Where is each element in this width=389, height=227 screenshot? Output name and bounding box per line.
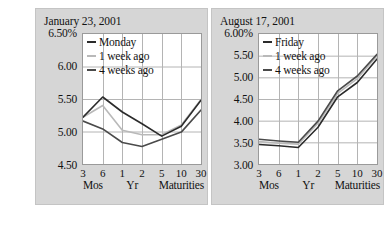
legend-item: Monday: [87, 35, 154, 49]
x-axis-tick-label: 10: [352, 167, 363, 179]
legend-color-swatch: [263, 41, 272, 43]
x-axis-tick-label: 1: [120, 167, 126, 179]
y-axis-tick-label: 5.50: [58, 94, 77, 105]
legend-color-swatch: [263, 55, 272, 57]
x-axis-group-label: Maturities: [335, 179, 380, 192]
chart-legend: Friday1 week ago4 weeks ago: [263, 35, 330, 77]
y-axis-tick-label: 6.00: [58, 61, 77, 72]
legend-item: 1 week ago: [87, 49, 154, 63]
x-axis-group-label: Maturities: [159, 179, 204, 192]
legend-item-label: 4 weeks ago: [99, 64, 154, 76]
x-axis-group-label: Yr: [126, 179, 138, 192]
x-axis-tick-label: 3: [256, 167, 262, 179]
x-axis-tick-label: 30: [196, 167, 207, 179]
legend-color-swatch: [87, 55, 96, 57]
x-axis-group-labels: MosYrMaturities: [259, 179, 377, 192]
legend-item-label: 1 week ago: [275, 50, 325, 62]
yield-curve-figure: January 23, 20014.505.005.506.006.50%Mon…: [0, 0, 389, 227]
x-axis-tick-label: 6: [100, 167, 106, 179]
x-axis-group-label: Yr: [302, 179, 314, 192]
legend-item: Friday: [263, 35, 330, 49]
y-axis-tick-label: 6.50%: [48, 28, 77, 39]
y-axis-tick-label: 4.50: [58, 160, 77, 171]
legend-item: 1 week ago: [263, 49, 330, 63]
x-axis-tick-label: 2: [139, 167, 145, 179]
legend-item-label: 1 week ago: [99, 50, 149, 62]
chart-panel-2: August 17, 20013.003.504.004.505.005.506…: [211, 8, 384, 205]
x-axis-tick-label: 10: [176, 167, 187, 179]
x-axis-group-label: Mos: [259, 179, 279, 192]
x-axis-tick-label: 3: [80, 167, 86, 179]
legend-item-label: 4 weeks ago: [275, 64, 330, 76]
y-axis-tick-label: 4.00: [234, 116, 253, 127]
x-axis-group-labels: MosYrMaturities: [83, 179, 201, 192]
chart-panel-1: January 23, 20014.505.005.506.006.50%Mon…: [35, 8, 208, 205]
y-axis-tick-label: 6.00%: [224, 28, 253, 39]
y-axis-tick-label: 4.50: [234, 94, 253, 105]
x-axis-tick-label: 5: [159, 167, 165, 179]
y-axis-tick-label: 3.50: [234, 138, 253, 149]
y-axis-tick-label: 3.00: [234, 160, 253, 171]
legend-color-swatch: [87, 69, 96, 71]
y-axis-tick-label: 5.00: [58, 127, 77, 138]
chart-panel-group: January 23, 20014.505.005.506.006.50%Mon…: [35, 8, 384, 205]
x-axis-tick-label: 1: [296, 167, 302, 179]
legend-item-label: Friday: [275, 36, 304, 48]
x-axis-tick-label: 6: [276, 167, 282, 179]
chart-legend: Monday1 week ago4 weeks ago: [87, 35, 154, 77]
x-axis-group-label: Mos: [83, 179, 103, 192]
legend-color-swatch: [87, 41, 96, 43]
y-axis-tick-label: 5.50: [234, 50, 253, 61]
x-axis-tick-label: 2: [315, 167, 321, 179]
legend-color-swatch: [263, 69, 272, 71]
x-axis-tick-label: 30: [372, 167, 383, 179]
y-axis-labels: 4.505.005.506.006.50%: [36, 9, 80, 204]
legend-item-label: Monday: [99, 36, 136, 48]
legend-item: 4 weeks ago: [263, 63, 330, 77]
y-axis-tick-label: 5.00: [234, 72, 253, 83]
legend-item: 4 weeks ago: [87, 63, 154, 77]
y-axis-labels: 3.003.504.004.505.005.506.00%: [212, 9, 256, 204]
x-axis-tick-label: 5: [335, 167, 341, 179]
